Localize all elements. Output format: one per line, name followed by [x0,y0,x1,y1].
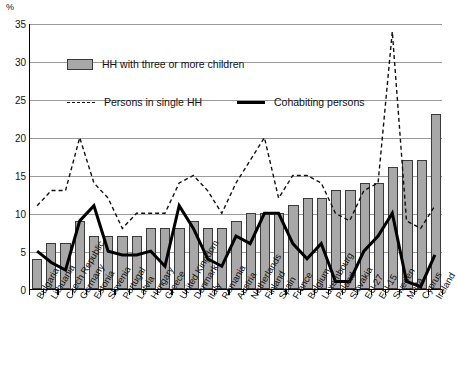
legend-item-bars: HH with three or more children [67,58,244,70]
legend: HH with three or more children Persons i… [67,56,407,112]
legend-dashed-line-icon [67,102,95,103]
legend-label-dashed: Persons in single HH [104,96,202,108]
y-axis-tick-10: 10 [4,209,26,220]
y-axis-tick-15: 15 [4,171,26,182]
y-axis-tick-5: 5 [4,247,26,258]
legend-item-dashed: Persons in single HH [67,96,202,108]
y-axis-tick-25: 25 [4,95,26,106]
y-axis-tick-20: 20 [4,133,26,144]
x-axis-category-labels: BulgariaLithuaniaCzech RepublicGermanyEs… [0,293,450,373]
legend-item-solid: Cohabiting persons [237,96,364,108]
legend-label-bars: HH with three or more children [102,58,244,70]
y-axis-tick-30: 30 [4,57,26,68]
legend-swatch-bar-icon [67,59,93,70]
legend-solid-line-icon [237,101,265,104]
y-axis-tick-35: 35 [4,19,26,30]
legend-label-solid: Cohabiting persons [274,96,364,108]
